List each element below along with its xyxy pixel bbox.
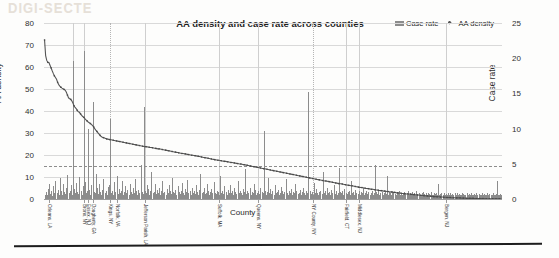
line-marker [378, 190, 379, 191]
line-marker [119, 141, 120, 142]
line-marker [60, 87, 61, 88]
line-marker [152, 147, 153, 148]
line-marker [384, 190, 385, 191]
y-tick-right: 20 [512, 54, 538, 63]
y-tick-left: 50 [8, 85, 34, 94]
line-marker [256, 167, 257, 168]
line-marker [204, 157, 205, 158]
line-marker [319, 179, 320, 180]
line-marker [230, 162, 231, 163]
line-marker [312, 178, 313, 179]
line-marker [181, 153, 182, 154]
x-tick-label: Dougherty, GA [90, 204, 95, 234]
line-marker [338, 183, 339, 184]
line-marker [417, 194, 418, 195]
line-marker [96, 131, 97, 132]
y-tick-left: 80 [8, 19, 34, 28]
line-marker [93, 126, 94, 127]
y-tick-right: 5 [512, 160, 538, 169]
y-tick-right: 0 [512, 195, 538, 204]
line-marker [113, 140, 114, 141]
line-marker [237, 163, 238, 164]
line-marker [342, 183, 343, 184]
line-marker [371, 189, 372, 190]
y-tick-right: 25 [512, 19, 538, 28]
line-marker [355, 186, 356, 187]
scan-bleedthrough-text: DIGI-SECTE [8, 0, 128, 18]
y-tick-left: 20 [8, 151, 34, 160]
line-marker [273, 170, 274, 171]
line-marker [420, 195, 421, 196]
line-marker [446, 197, 447, 198]
line-marker [397, 192, 398, 193]
line-marker [188, 154, 189, 155]
line-marker [243, 164, 244, 165]
x-tick-mark [117, 200, 118, 203]
line-marker [410, 194, 411, 195]
line-marker [309, 177, 310, 178]
line-marker [260, 167, 261, 168]
line-marker [155, 148, 156, 149]
line-marker [129, 143, 130, 144]
line-marker [335, 182, 336, 183]
x-tick-label: Orleans, LA [47, 204, 52, 228]
line-marker [57, 82, 58, 83]
line-marker [103, 137, 104, 138]
line-marker [443, 197, 444, 198]
line-marker [364, 188, 365, 189]
line-marker [106, 138, 107, 139]
x-tick-label: Middlesex, NJ [356, 204, 361, 233]
line-marker [224, 161, 225, 162]
x-tick-label: NY County, NY [310, 204, 315, 235]
line-marker [221, 160, 222, 161]
x-tick-label: Queens, NY [256, 204, 261, 229]
line-marker [194, 155, 195, 156]
line-marker [296, 175, 297, 176]
line-marker [263, 168, 264, 169]
line-marker [351, 185, 352, 186]
x-tick-mark [88, 200, 89, 203]
line-marker [99, 135, 100, 136]
line-marker [289, 173, 290, 174]
line-marker [126, 142, 127, 143]
line-marker [80, 113, 81, 114]
line-marker [73, 105, 74, 106]
line-marker [50, 67, 51, 68]
line-marker [139, 145, 140, 146]
line-marker [391, 191, 392, 192]
line-marker [253, 166, 254, 167]
line-marker [63, 89, 64, 90]
line-marker [387, 191, 388, 192]
line-marker [145, 146, 146, 147]
x-tick-mark [313, 200, 314, 203]
y-tick-left: 60 [8, 63, 34, 72]
line-marker [381, 190, 382, 191]
line-marker [185, 153, 186, 154]
line-marker [302, 176, 303, 177]
x-tick-label: Bergen, NJ [443, 204, 448, 227]
y-tick-left: 10 [8, 173, 34, 182]
x-tick-label: Jefferson Parish, LA [142, 204, 147, 245]
line-marker [234, 162, 235, 163]
line-marker [67, 94, 68, 95]
x-tick-mark [145, 200, 146, 203]
line-marker [83, 117, 84, 118]
line-marker [436, 196, 437, 197]
line-marker [325, 180, 326, 181]
line-marker [276, 171, 277, 172]
line-marker [292, 174, 293, 175]
x-tick-mark [258, 200, 259, 203]
line-marker [450, 197, 451, 198]
y-tick-left: 70 [8, 41, 34, 50]
line-marker [361, 187, 362, 188]
line-marker [149, 147, 150, 148]
line-marker [132, 144, 133, 145]
line-marker [168, 150, 169, 151]
line-marker [332, 182, 333, 183]
line-marker [423, 195, 424, 196]
x-tick-mark [359, 200, 360, 203]
x-tick-mark [446, 200, 447, 203]
line-marker [240, 163, 241, 164]
x-tick-label: Norfolk, VA [114, 204, 119, 227]
y-tick-right: 10 [512, 125, 538, 134]
